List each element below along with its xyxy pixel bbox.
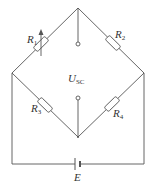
label-r2: R2 [115, 29, 125, 42]
terminal-upper-icon [76, 42, 80, 46]
label-source: E [74, 172, 81, 183]
bottom-node-dot-icon [77, 136, 79, 138]
label-r3: R3 [31, 103, 41, 116]
label-r4: R4 [113, 108, 123, 121]
terminal-lower-icon [76, 96, 80, 100]
label-r1: R1 [27, 34, 37, 47]
variable-arrow-head-icon [39, 29, 44, 35]
bridge-circuit-diagram: R1 R2 R3 R4 USC E [0, 0, 155, 196]
label-output-voltage: USC [68, 73, 85, 86]
circuit-drawing [0, 0, 155, 196]
